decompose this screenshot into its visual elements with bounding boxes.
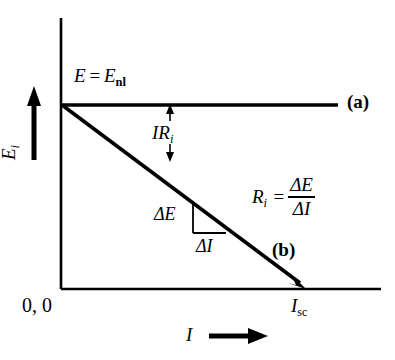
origin-label: 0, 0 bbox=[22, 295, 52, 315]
fraction-denominator: ΔI bbox=[288, 198, 315, 219]
y-axis-arrow-icon bbox=[27, 86, 41, 160]
diagram-canvas bbox=[0, 0, 395, 360]
delta-fraction: ΔEΔI bbox=[288, 175, 315, 219]
ir-drop-label: IRi bbox=[152, 123, 173, 145]
curve-b-label: (b) bbox=[272, 240, 295, 259]
curve-a-label: (a) bbox=[347, 92, 369, 111]
short-circuit-current-label: Isc bbox=[291, 296, 307, 318]
no-load-equation-label: E = Enl bbox=[74, 66, 126, 88]
figure-container: E = Enl (a) IRi Ri = ΔEΔI ΔE ΔI (b) 0, 0… bbox=[0, 0, 395, 360]
x-axis-label: I bbox=[186, 325, 192, 344]
y-axis-label: Ei bbox=[0, 145, 21, 160]
internal-resistance-formula: Ri = ΔEΔI bbox=[252, 176, 315, 220]
delta-e-label: ΔE bbox=[154, 205, 176, 223]
x-axis-arrow-icon bbox=[209, 328, 268, 344]
delta-i-label: ΔI bbox=[196, 237, 213, 255]
fraction-numerator: ΔE bbox=[288, 175, 315, 198]
